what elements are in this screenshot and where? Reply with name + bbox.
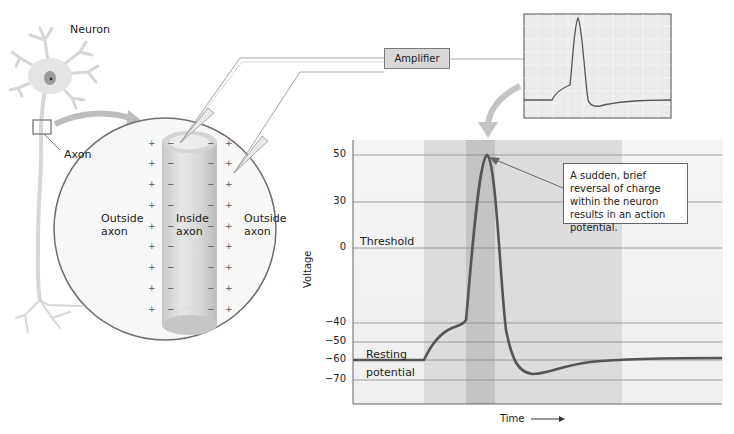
svg-text:+: +: [225, 262, 233, 272]
svg-text:+: +: [148, 304, 156, 314]
svg-text:−: −: [167, 262, 175, 272]
outside-axon-left-label: Outside axon: [101, 212, 143, 238]
svg-text:+: +: [225, 304, 233, 314]
svg-text:−: −: [207, 304, 215, 314]
svg-text:+: +: [148, 241, 156, 251]
ytick-minus60: −60: [316, 353, 346, 364]
neuron-label: Neuron: [70, 23, 110, 36]
svg-text:−: −: [207, 262, 215, 272]
svg-text:+: +: [148, 262, 156, 272]
outside-axon-right-line2: axon: [244, 225, 286, 238]
svg-text:+: +: [225, 221, 233, 231]
outside-axon-right-label: Outside axon: [244, 212, 286, 238]
svg-text:−: −: [167, 304, 175, 314]
resting-potential-label: Resting potential: [366, 346, 426, 382]
outer-left-plus: ++++ +++++: [148, 138, 156, 314]
svg-text:+: +: [148, 283, 156, 293]
nucleolus: [50, 78, 53, 81]
inside-axon-line2: axon: [176, 225, 209, 238]
svg-text:−: −: [207, 241, 215, 251]
ytick-minus70: −70: [316, 373, 346, 384]
ytick-30: 30: [316, 195, 346, 206]
threshold-label: Threshold: [360, 235, 414, 248]
y-axis-label: Voltage: [302, 250, 313, 288]
svg-text:−: −: [207, 283, 215, 293]
svg-text:−: −: [207, 179, 215, 189]
svg-text:+: +: [148, 221, 156, 231]
ytick-minus50: −50: [316, 335, 346, 346]
svg-text:−: −: [167, 179, 175, 189]
svg-text:+: +: [225, 138, 233, 148]
svg-text:−: −: [167, 138, 175, 148]
axon-leader-line: [44, 134, 60, 150]
axon-lumen: [170, 135, 210, 150]
scope-to-graph-arrowhead-icon: [478, 122, 498, 138]
ytick-0: 0: [316, 241, 346, 252]
inside-axon-line1: Inside: [176, 212, 209, 225]
time-arrow-icon: [559, 416, 565, 422]
outside-axon-left-line1: Outside: [101, 212, 143, 225]
amplifier-box: Amplifier: [384, 48, 450, 69]
outside-axon-right-line1: Outside: [244, 212, 286, 225]
outer-right-plus: ++++ +++++: [225, 138, 233, 314]
zoom-arrow-icon: [55, 114, 135, 124]
ytick-minus40: −40: [316, 316, 346, 327]
inside-axon-label: Inside axon: [176, 212, 209, 238]
svg-text:−: −: [167, 200, 175, 210]
outside-axon-left-line2: axon: [101, 225, 143, 238]
svg-text:+: +: [148, 158, 156, 168]
svg-text:+: +: [225, 200, 233, 210]
svg-text:−: −: [207, 138, 215, 148]
svg-text:−: −: [167, 221, 175, 231]
svg-text:+: +: [225, 158, 233, 168]
ytick-50: 50: [316, 148, 346, 159]
svg-text:−: −: [167, 241, 175, 251]
inner-left-minus: −−−− −−−−−: [167, 138, 175, 314]
svg-text:−: −: [167, 158, 175, 168]
nucleus: [44, 71, 56, 85]
x-axis-label: Time: [500, 413, 524, 424]
svg-text:+: +: [225, 283, 233, 293]
scope-to-graph-arrow-icon: [488, 86, 520, 124]
svg-text:−: −: [207, 200, 215, 210]
svg-text:−: −: [207, 158, 215, 168]
svg-text:+: +: [225, 179, 233, 189]
axon-tube-bottom: [162, 315, 217, 335]
svg-text:+: +: [148, 179, 156, 189]
action-potential-callout: A sudden, brief reversal of charge withi…: [563, 163, 688, 224]
svg-text:+: +: [148, 200, 156, 210]
svg-text:+: +: [148, 138, 156, 148]
oscilloscope: [524, 14, 671, 118]
axon-label: Axon: [64, 148, 91, 161]
svg-text:−: −: [167, 283, 175, 293]
svg-text:+: +: [225, 241, 233, 251]
